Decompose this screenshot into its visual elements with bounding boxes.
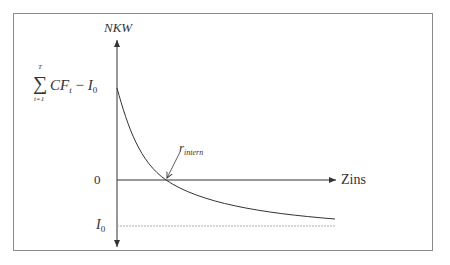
- sum-upper-limit: T: [38, 64, 42, 71]
- y-axis-label: NKW: [104, 21, 132, 34]
- y-tick-zero: 0: [94, 173, 101, 186]
- x-axis-label: Zins: [341, 173, 366, 187]
- npv-curve: [117, 88, 335, 219]
- npv-diagram: [0, 0, 450, 265]
- i0-subscript: 0: [93, 85, 98, 95]
- irr-label: rintern: [179, 141, 203, 157]
- minus-sign: −: [72, 77, 88, 93]
- cf-symbol: CF: [50, 77, 69, 93]
- sum-lower-limit: t=1: [34, 96, 44, 103]
- y-tick-investment: I0: [96, 218, 105, 234]
- y-tick-sum-formula: T ∑ t=1 CFt − I0: [31, 62, 123, 106]
- sigma-symbol: ∑: [33, 73, 47, 93]
- sum-expression: CFt − I0: [50, 78, 97, 95]
- irr-subscript: intern: [184, 148, 203, 157]
- investment-subscript: 0: [101, 224, 106, 234]
